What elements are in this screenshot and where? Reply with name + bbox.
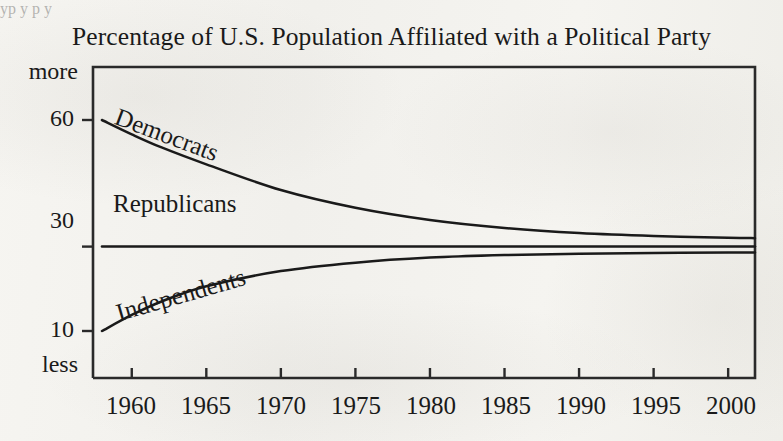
y-tick-label-10: 10 [0,316,74,343]
y-tick-label-30: 30 [0,207,74,234]
y-axis-label-more: more [0,58,78,85]
series-label-republicans: Republicans [113,190,237,218]
x-tick-label-2000: 2000 [686,392,776,420]
y-tick-label-60: 60 [0,105,74,132]
y-axis-ticks [82,120,93,331]
y-axis-label-less: less [0,351,78,378]
scanned-chart-page: yp y p y Percentage of U.S. Population A… [0,0,783,441]
chart-plot-area [0,0,783,441]
x-axis-ticks [132,368,728,378]
plot-frame [93,67,755,378]
